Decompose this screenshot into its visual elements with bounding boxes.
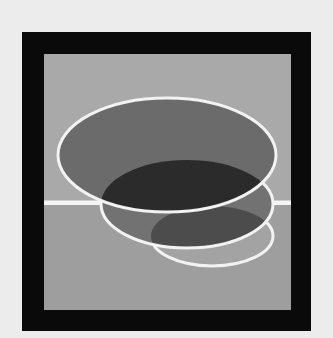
abstract-artwork [0,0,333,338]
